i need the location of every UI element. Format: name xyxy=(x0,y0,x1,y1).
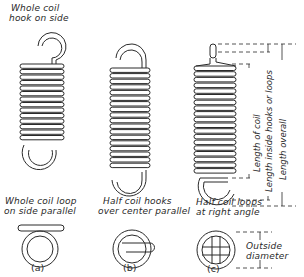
label-a-end-2: on side parallel xyxy=(4,206,76,216)
label-outside-1: Outside xyxy=(246,241,282,251)
spring-a xyxy=(20,33,66,170)
label-outside-2: diameter xyxy=(246,251,288,261)
label-c-end-1: Half coil loops xyxy=(196,197,262,207)
label-a-end-1: Whole coil loop xyxy=(5,196,77,206)
label-a-top-1: Whole coil xyxy=(11,3,59,13)
caption-b: (b) xyxy=(123,262,136,273)
label-b-end-2: over center parallel xyxy=(98,206,190,216)
label-b-end-1: Half coil hooks xyxy=(103,196,172,206)
label-a-top-2: hook on side xyxy=(9,13,69,23)
label-c-end-2: at right angle xyxy=(196,207,260,217)
spring-b xyxy=(110,44,150,196)
dim-length-overall: Length overall xyxy=(278,119,288,180)
caption-c: (c) xyxy=(207,263,220,274)
caption-a: (a) xyxy=(31,262,44,273)
spring-c xyxy=(194,44,236,205)
dim-length-inside: Length inside hooks or loops xyxy=(264,70,274,192)
dim-length-of-coil: Length of coil xyxy=(252,114,262,172)
end-view-a xyxy=(18,225,64,267)
